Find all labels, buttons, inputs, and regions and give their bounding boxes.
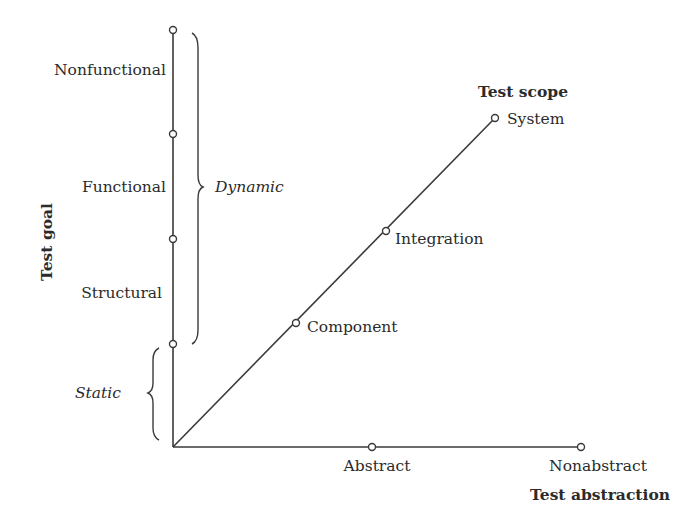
label-nonabstract: Nonabstract <box>549 457 648 475</box>
goal-node-top <box>170 27 177 34</box>
label-static: Static <box>75 384 121 402</box>
scope-axis-line <box>173 120 493 447</box>
axis-title-test-abstraction: Test abstraction <box>530 485 670 504</box>
axis-title-test-goal: Test goal <box>37 203 56 281</box>
dynamic-brace-icon <box>192 33 203 344</box>
goal-node-nonfunctional-functional <box>170 131 177 138</box>
label-component: Component <box>307 318 398 336</box>
label-nonfunctional: Nonfunctional <box>54 61 166 79</box>
label-dynamic: Dynamic <box>214 178 284 196</box>
label-functional: Functional <box>82 178 166 196</box>
scope-node-integration <box>383 228 390 235</box>
static-brace-icon <box>148 348 159 440</box>
goal-node-functional-structural <box>170 236 177 243</box>
abstraction-node-nonabstract <box>578 444 585 451</box>
label-abstract: Abstract <box>343 457 412 475</box>
scope-node-system <box>492 115 499 122</box>
abstraction-node-abstract <box>369 444 376 451</box>
scope-node-component <box>293 320 300 327</box>
label-integration: Integration <box>395 230 484 248</box>
axis-title-test-scope: Test scope <box>478 82 568 101</box>
label-system: System <box>507 110 565 128</box>
label-structural: Structural <box>81 284 162 302</box>
test-classification-diagram: Nonfunctional Functional Structural Dyna… <box>0 0 699 530</box>
goal-node-structural-static <box>170 341 177 348</box>
